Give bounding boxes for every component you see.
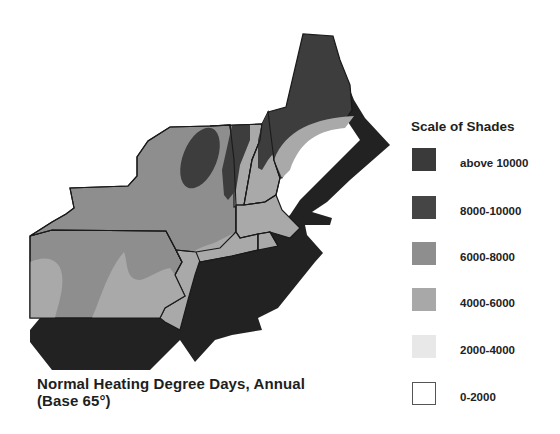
legend-swatch	[412, 335, 436, 358]
legend-label: 4000-6000	[460, 297, 515, 309]
legend-label: 8000-10000	[460, 205, 521, 217]
legend-label: above 10000	[460, 157, 528, 169]
legend-swatch	[412, 288, 436, 311]
heating-degree-days-map	[0, 0, 400, 370]
legend-title: Scale of Shades	[411, 119, 515, 134]
legend-swatch	[412, 382, 436, 405]
legend-swatch	[412, 196, 436, 219]
legend-item-8000-10000: 8000-10000	[412, 196, 560, 222]
legend-item-above-10000: above 10000	[412, 148, 560, 174]
legend-swatch	[412, 242, 436, 265]
legend-label: 6000-8000	[460, 251, 515, 263]
legend-item-2000-4000: 2000-4000	[412, 335, 560, 361]
caption-subtitle: (Base 65°)	[37, 392, 305, 409]
legend-item-0-2000: 0-2000	[412, 382, 560, 408]
legend-item-4000-6000: 4000-6000	[412, 288, 560, 314]
legend-label: 2000-4000	[460, 344, 515, 356]
caption-title: Normal Heating Degree Days, Annual	[37, 375, 305, 392]
map-caption: Normal Heating Degree Days, Annual (Base…	[37, 375, 305, 409]
legend-swatch	[412, 148, 436, 171]
legend-item-6000-8000: 6000-8000	[412, 242, 560, 268]
legend-label: 0-2000	[460, 391, 496, 403]
